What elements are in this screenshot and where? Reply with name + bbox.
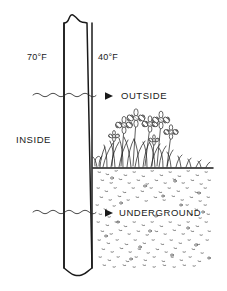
- flower-bloom: [108, 109, 179, 145]
- flower-cluster: [93, 109, 210, 167]
- label-underground: UNDERGROUND: [119, 207, 201, 218]
- wall-column: [64, 15, 92, 276]
- label-inside: INSIDE: [16, 134, 51, 145]
- label-temperature-outside: 40°F: [98, 52, 118, 62]
- wall-cross-section-diagram: 70°F 40°F INSIDE OUTSIDE UNDERGROUND: [0, 0, 227, 291]
- label-outside: OUTSIDE: [121, 90, 167, 101]
- wavy-arrow-underground: [33, 209, 113, 217]
- diagram-canvas: 70°F 40°F INSIDE OUTSIDE UNDERGROUND: [0, 0, 227, 291]
- label-temperature-inside: 70°F: [27, 52, 47, 62]
- wavy-arrow-outside: [33, 92, 113, 100]
